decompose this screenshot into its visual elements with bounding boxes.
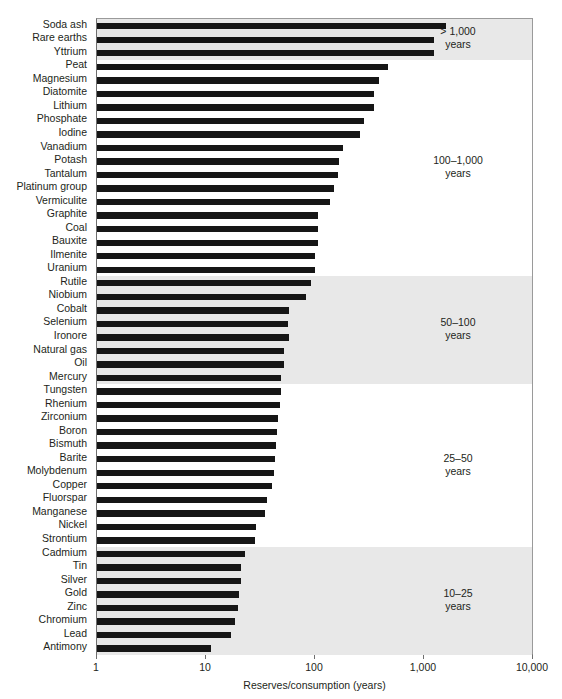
category-label: Boron	[59, 425, 87, 436]
bar-row	[97, 195, 533, 209]
bar-row	[97, 560, 533, 574]
category-label: Zinc	[67, 601, 87, 612]
category-label: Natural gas	[33, 344, 87, 355]
category-label: Oil	[74, 357, 87, 368]
axis-tick-label: 1	[93, 661, 99, 673]
bar-row	[97, 425, 533, 439]
bar	[97, 172, 338, 178]
bar	[97, 402, 280, 408]
category-label: Mercury	[49, 371, 87, 382]
category-label: Ilmenite	[50, 249, 87, 260]
bar	[97, 199, 330, 205]
band-label: 25–50 years	[384, 452, 532, 478]
axis-tick-label: 100	[305, 661, 323, 673]
bar-row	[97, 533, 533, 547]
bar-row	[97, 628, 533, 642]
bar	[97, 158, 339, 164]
category-axis-labels: Soda ashRare earthsYttriumPeatMagnesiumD…	[0, 18, 92, 655]
category-label: Peat	[65, 59, 87, 70]
bar	[97, 497, 267, 503]
bar	[97, 226, 318, 232]
category-label: Platinum group	[16, 181, 87, 192]
band-label: 100–1,000 years	[384, 154, 532, 180]
category-label: Rutile	[60, 276, 87, 287]
category-label: Chromium	[39, 614, 87, 625]
bar-row	[97, 479, 533, 493]
category-label: Barite	[60, 452, 87, 463]
axis-tick-label: 10,000	[516, 661, 548, 673]
value-axis: 1101001,00010,000	[96, 655, 533, 699]
bar	[97, 442, 276, 448]
category-label: Cobalt	[57, 303, 87, 314]
category-label: Vanadium	[40, 141, 87, 152]
category-label: Yttrium	[54, 46, 87, 57]
axis-tick-label: 10	[199, 661, 211, 673]
bar-row	[97, 398, 533, 412]
bar	[97, 145, 343, 151]
bar-row	[97, 127, 533, 141]
bar	[97, 307, 289, 313]
bar	[97, 510, 265, 516]
category-label: Antimony	[43, 641, 87, 652]
bar	[97, 618, 235, 624]
bar	[97, 361, 284, 367]
category-label: Bismuth	[49, 438, 87, 449]
category-label: Copper	[53, 479, 87, 490]
band-label: 50–100 years	[384, 316, 532, 342]
bar-row	[97, 493, 533, 507]
plot-area: > 1,000 years100–1,000 years50–100 years…	[96, 18, 533, 655]
bar	[97, 470, 274, 476]
bar-row	[97, 614, 533, 628]
bar	[97, 524, 256, 530]
category-label: Lead	[64, 628, 87, 639]
category-label: Manganese	[32, 506, 87, 517]
bar-row	[97, 73, 533, 87]
category-label: Gold	[65, 587, 87, 598]
bar	[97, 415, 278, 421]
bar-row	[97, 114, 533, 128]
category-label: Potash	[54, 154, 87, 165]
category-label: Bauxite	[52, 235, 87, 246]
bar	[97, 578, 241, 584]
bar	[97, 91, 374, 97]
bar	[97, 334, 289, 340]
bar-row	[97, 641, 533, 655]
category-label: Lithium	[53, 100, 87, 111]
bar	[97, 605, 238, 611]
category-label: Phosphate	[37, 113, 87, 124]
axis-tick	[423, 655, 424, 659]
bar-row	[97, 371, 533, 385]
band-label: 10–25 years	[384, 587, 532, 613]
bar-row	[97, 222, 533, 236]
bar	[97, 429, 277, 435]
category-label: Magnesium	[33, 73, 87, 84]
category-label: Vermiculite	[36, 195, 87, 206]
category-label: Uranium	[47, 262, 87, 273]
bar	[97, 104, 374, 110]
category-label: Diatomite	[43, 86, 87, 97]
bar	[97, 321, 288, 327]
bar-row	[97, 60, 533, 74]
bar	[97, 456, 275, 462]
bar	[97, 551, 245, 557]
bar	[97, 348, 284, 354]
bar	[97, 240, 318, 246]
bar-row	[97, 384, 533, 398]
category-label: Molybdenum	[27, 465, 87, 476]
category-label: Tantalum	[44, 168, 87, 179]
bar-row	[97, 263, 533, 277]
bar-row	[97, 506, 533, 520]
bar-row	[97, 236, 533, 250]
bar	[97, 645, 211, 651]
axis-tick	[96, 655, 97, 659]
bar	[97, 77, 379, 83]
bar	[97, 388, 281, 394]
bar	[97, 632, 231, 638]
bar	[97, 375, 281, 381]
bar	[97, 483, 272, 489]
bar	[97, 212, 318, 218]
bar-row	[97, 208, 533, 222]
bar	[97, 185, 334, 191]
bar-row	[97, 411, 533, 425]
category-label: Iodine	[58, 127, 87, 138]
